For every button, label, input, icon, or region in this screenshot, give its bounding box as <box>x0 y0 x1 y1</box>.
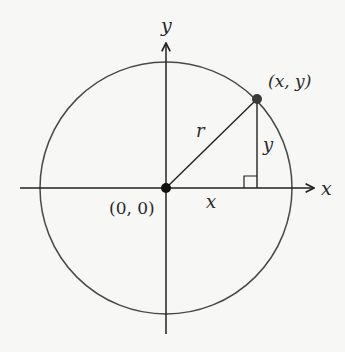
y-axis-label: y <box>160 14 172 36</box>
vertical-leg-label: y <box>262 134 274 155</box>
diagram-canvas: y x (x, y) (0, 0) r y x <box>0 0 345 352</box>
radius-label: r <box>196 120 206 141</box>
origin-label: (0, 0) <box>109 198 155 218</box>
origin-point <box>161 183 171 193</box>
point-label: (x, y) <box>268 71 311 91</box>
radius-line <box>166 99 257 188</box>
right-angle-marker <box>244 176 257 188</box>
horizontal-leg-label: x <box>206 191 216 212</box>
circle-point <box>252 94 262 104</box>
x-axis-label: x <box>321 177 332 199</box>
